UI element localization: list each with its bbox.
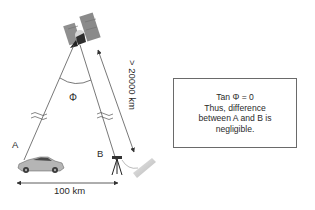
note-box: Tan Φ = 0 Thus, difference between A and… (173, 78, 297, 148)
note-line-3: between A and B is (198, 113, 271, 124)
survey-tripod-icon (112, 156, 122, 175)
car-icon (18, 157, 64, 173)
note-line-2: Thus, difference (204, 103, 265, 114)
point-b-label: B (97, 149, 103, 159)
signal-line-b (80, 45, 116, 160)
note-line-4: negligible. (216, 124, 255, 135)
satellite-icon (63, 12, 100, 48)
antenna-cable (122, 160, 138, 168)
break-mark-right (97, 113, 113, 120)
point-a-label: A (12, 140, 18, 150)
distance-label: 100 km (54, 186, 85, 196)
signal-line-a (24, 45, 74, 160)
note-line-1: Tan Φ = 0 (216, 92, 254, 103)
angle-label: Φ (69, 93, 77, 103)
angle-arc (60, 78, 91, 84)
altitude-label: > 20000 km (127, 60, 138, 110)
